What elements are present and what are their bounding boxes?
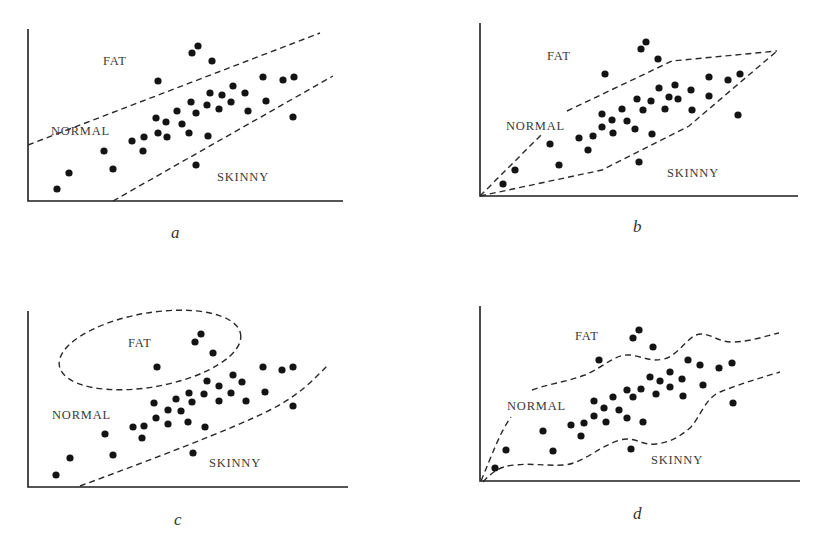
data-point [705,92,712,99]
data-point [580,419,587,426]
data-point [595,356,602,363]
data-point [609,129,616,136]
region-label-skinny: SKINNY [667,166,719,180]
data-point [129,423,136,430]
panel-d: FATNORMALSKINNYd [480,306,800,523]
data-point [615,406,622,413]
region-label-normal: NORMAL [506,119,565,133]
data-point [140,133,147,140]
data-point [53,185,60,192]
data-point [173,107,180,114]
data-point [191,338,198,345]
data-point [289,363,296,370]
data-point [623,386,630,393]
region-label-fat: FAT [128,336,152,350]
data-point [201,423,208,430]
data-point [601,70,608,77]
data-point [549,447,556,454]
data-point [206,89,213,96]
data-point [128,137,135,144]
data-point [197,330,204,337]
data-point [734,111,741,118]
data-point [499,180,506,187]
data-point [539,427,546,434]
data-point [666,368,673,375]
data-point [100,147,107,154]
data-point [502,446,509,453]
data-point [215,397,222,404]
data-point [139,147,146,154]
data-point [242,397,249,404]
data-point [699,381,706,388]
region-label-skinny: SKINNY [209,456,261,470]
data-point [215,382,222,389]
data-point [229,371,236,378]
data-point [608,116,615,123]
data-point [200,390,207,397]
region-label-normal: NORMAL [507,399,566,413]
data-point [637,385,644,392]
data-point [598,123,605,130]
data-point [279,76,286,83]
data-point [194,42,201,49]
panel-c: FATNORMALSKINNYc [28,298,348,529]
data-point [674,95,681,102]
panel-caption: a [171,223,180,242]
data-point [511,166,518,173]
data-point [648,130,655,137]
data-point [229,82,236,89]
data-point [687,86,694,93]
data-point [584,146,591,153]
data-point [633,95,640,102]
data-point [259,363,266,370]
data-point [187,98,194,105]
data-point [140,422,147,429]
data-point [696,361,703,368]
data-point [600,404,607,411]
panel-caption: b [633,217,642,236]
data-point [728,359,735,366]
region-label-fat: FAT [575,329,599,343]
data-point [185,389,192,396]
data-point [215,105,222,112]
data-point [289,402,296,409]
data-point [152,414,159,421]
data-point [154,129,161,136]
data-point [185,129,192,136]
data-point [184,418,191,425]
data-point [724,76,731,83]
data-point [655,84,662,91]
data-point [52,471,59,478]
data-point [262,97,269,104]
data-point [261,388,268,395]
data-point [289,113,296,120]
data-point [590,412,597,419]
classification-boundaries-figure: FATNORMALSKINNYaFATNORMALSKINNYbFATNORMA… [0,0,825,548]
data-point [189,449,196,456]
data-point [154,77,161,84]
data-point [227,389,234,396]
data-point [627,445,634,452]
data-point [208,57,215,64]
data-point [649,343,656,350]
region-label-normal: NORMAL [52,408,111,422]
data-point [623,117,630,124]
data-point [631,125,638,132]
data-point [66,454,73,461]
data-point [65,169,72,176]
data-point [290,73,297,80]
region-label-skinny: SKINNY [217,170,269,184]
data-point [715,364,722,371]
data-point [164,406,171,413]
region-label-fat: FAT [547,49,571,63]
data-point [629,393,636,400]
data-point [555,161,562,168]
axes [28,311,348,487]
data-point [618,105,625,112]
data-point [646,373,653,380]
region-label-normal: NORMAL [51,124,110,138]
data-point [153,363,160,370]
region-label-skinny: SKINNY [651,453,703,467]
data-point [705,73,712,80]
data-point [218,91,225,98]
